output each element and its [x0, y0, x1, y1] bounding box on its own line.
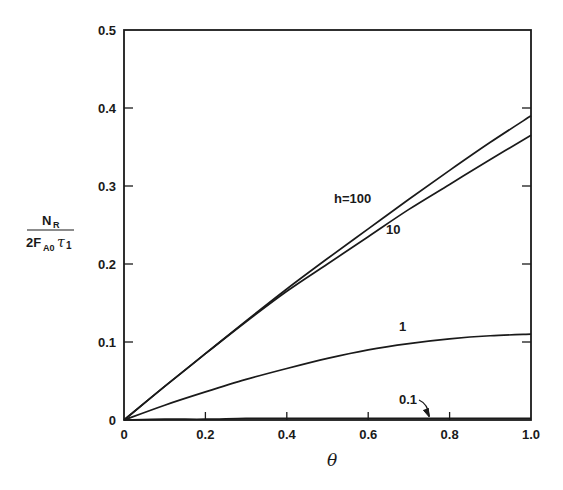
curve-label: 1	[399, 319, 406, 334]
y-tick-label: 0.2	[98, 257, 116, 272]
y-tick-label: 0.4	[98, 101, 117, 116]
x-tick-label: 0.6	[359, 427, 377, 442]
plot-frame	[124, 30, 531, 420]
x-tick-label: 0	[120, 427, 127, 442]
x-tick-label: 0.2	[196, 427, 214, 442]
y-label-numerator: N	[42, 213, 51, 228]
plot-border	[124, 30, 531, 420]
y-label-denominator-sub: A0	[43, 243, 55, 253]
labels: 00.20.40.60.81.000.10.20.30.40.5h=100101…	[26, 23, 540, 470]
x-tick-label: 0.8	[441, 427, 459, 442]
curve-h-10	[124, 135, 531, 420]
y-label-denominator: 2F	[26, 235, 41, 250]
curves	[124, 116, 531, 420]
x-tick-label: 0.4	[278, 427, 297, 442]
y-tick-label: 0.1	[98, 335, 116, 350]
y-label-tau-sub: 1	[66, 240, 72, 251]
curve-h-1	[124, 334, 531, 420]
y-tick-label: 0	[109, 413, 116, 428]
arrow-head-icon	[423, 408, 429, 417]
y-tick-label: 0.3	[98, 179, 116, 194]
y-label-tau: τ	[57, 234, 65, 250]
curve-label: 0.1	[399, 392, 417, 407]
curve-label: 10	[386, 222, 400, 237]
y-tick-label: 0.5	[98, 23, 116, 38]
chart: 00.20.40.60.81.000.10.20.30.40.5h=100101…	[0, 0, 563, 490]
y-label-numerator-sub: R	[53, 220, 60, 230]
y-axis-label: NR2FA0τ1	[26, 213, 74, 253]
x-tick-label: 1.0	[522, 427, 540, 442]
x-axis-label: θ	[327, 450, 337, 470]
curve-h-100	[124, 116, 531, 420]
curve-label: h=100	[334, 191, 371, 206]
